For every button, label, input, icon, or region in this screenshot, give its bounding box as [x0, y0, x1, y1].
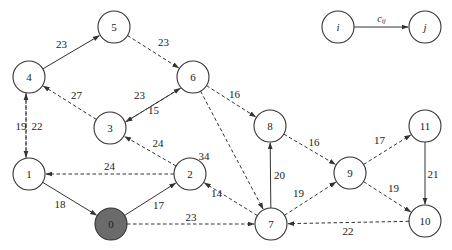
edge-5-to-6	[128, 36, 179, 68]
node-11: 11	[409, 110, 441, 142]
edge-weight-label: 22	[343, 225, 354, 237]
edge-labels-layer: 1817232424192223232723151634142016191719…	[16, 13, 439, 237]
node-label: 11	[420, 120, 431, 132]
edge-1-to-0	[43, 182, 97, 215]
node-label: 10	[420, 215, 432, 227]
edge-weight-label: 19	[16, 120, 28, 132]
edge-10-to-7	[288, 221, 409, 223]
node-8: 8	[254, 110, 286, 142]
edge-4-to-5	[43, 36, 100, 69]
edge-weight-label: 17	[374, 134, 386, 146]
legend-edge-cost-label: cij	[377, 13, 385, 26]
legend-node-j: j	[409, 11, 441, 43]
node-2: 2	[174, 158, 206, 190]
edge-9-to-11	[364, 135, 411, 164]
node-label: 2	[187, 168, 193, 180]
edge-weight-label: 15	[148, 104, 160, 116]
node-label: 7	[268, 218, 274, 230]
edge-2-to-3	[125, 136, 176, 166]
edge-weight-label: 20	[274, 169, 286, 181]
edge-weight-label: 23	[186, 211, 198, 223]
node-9: 9	[334, 157, 366, 189]
edge-weight-label: 23	[56, 38, 68, 50]
edge-weight-label: 23	[158, 36, 170, 48]
edge-weight-label: 17	[153, 199, 165, 211]
edge-weight-label: 14	[211, 187, 223, 199]
node-label: 9	[347, 167, 353, 179]
node-label: 6	[190, 71, 196, 83]
edge-6-to-7	[200, 91, 263, 209]
edge-weight-label: 21	[428, 168, 439, 180]
node-label: i	[336, 21, 339, 33]
node-4: 4	[13, 61, 45, 93]
graph-diagram: 01234567891011ij 18172324241922232327231…	[0, 0, 452, 250]
edges-layer	[26, 27, 425, 224]
edge-weight-label: 24	[104, 160, 116, 172]
edge-weight-label: 16	[309, 136, 321, 148]
node-1: 1	[13, 158, 45, 190]
edge-weight-label: 23	[134, 89, 146, 101]
node-0: 0	[95, 208, 127, 240]
node-6: 6	[177, 61, 209, 93]
node-label: 0	[108, 218, 114, 230]
edge-7-to-8	[270, 143, 271, 208]
edge-weight-label: 24	[153, 137, 165, 149]
edge-weight-label: 34	[199, 150, 211, 162]
edge-weight-label: 22	[32, 120, 43, 132]
edge-3-to-4	[43, 86, 96, 119]
edge-weight-label: 16	[229, 88, 241, 100]
edge-weight-label: 19	[293, 187, 305, 199]
nodes-layer: 01234567891011ij	[13, 11, 441, 240]
legend-node-i: i	[322, 11, 354, 43]
node-7: 7	[255, 208, 287, 240]
edge-0-to-2	[125, 183, 176, 215]
node-label: 1	[26, 168, 32, 180]
node-label: 4	[26, 71, 32, 83]
edge-weight-label: 18	[55, 198, 67, 210]
node-10: 10	[409, 205, 441, 237]
node-label: 5	[111, 21, 117, 33]
edge-weight-label: 19	[388, 182, 400, 194]
edge-weight-label: 27	[71, 89, 83, 101]
node-label: 3	[107, 122, 113, 134]
node-3: 3	[94, 112, 126, 144]
node-label: 8	[267, 120, 273, 132]
node-5: 5	[98, 11, 130, 43]
